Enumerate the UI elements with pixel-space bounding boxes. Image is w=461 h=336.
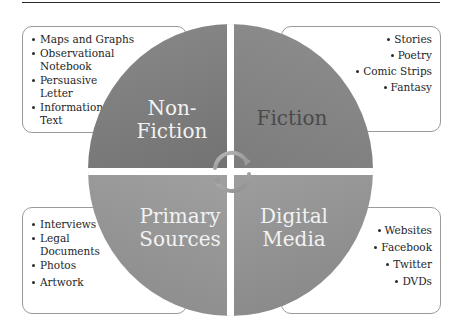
bullet-icon	[384, 86, 387, 89]
fiction-label: Fiction	[252, 107, 332, 130]
list-item-text: Fantasy	[391, 81, 432, 93]
bullet-icon	[387, 38, 390, 41]
list-item-text: DVDs	[402, 275, 432, 287]
circular-arrows-icon	[209, 148, 255, 194]
bullet-icon	[391, 54, 394, 57]
label-line: Digital	[249, 205, 339, 228]
label-line: Primary	[130, 205, 230, 228]
list-item-text: Poetry	[398, 49, 432, 61]
list-item-text: Websites	[385, 224, 432, 236]
nonfiction-label: Non- Fiction	[132, 97, 212, 143]
bullet-icon	[395, 280, 398, 283]
digital-media-label: Digital Media	[249, 205, 339, 251]
list-item-text: Twitter	[393, 258, 432, 270]
label-line: Media	[249, 228, 339, 251]
list-item-text: Stories	[394, 33, 432, 45]
primary-sources-label: Primary Sources	[130, 205, 230, 251]
bullet-icon	[378, 229, 381, 232]
top-rule	[22, 2, 440, 3]
label-line: Fiction	[132, 120, 212, 143]
list-item-text: Facebook	[381, 241, 432, 253]
bullet-icon	[374, 246, 377, 249]
list-item-text: Comic Strips	[363, 65, 432, 77]
label-line: Sources	[130, 228, 230, 251]
bullet-icon	[386, 263, 389, 266]
label-line: Fiction	[252, 107, 332, 130]
label-line: Non-	[132, 97, 212, 120]
